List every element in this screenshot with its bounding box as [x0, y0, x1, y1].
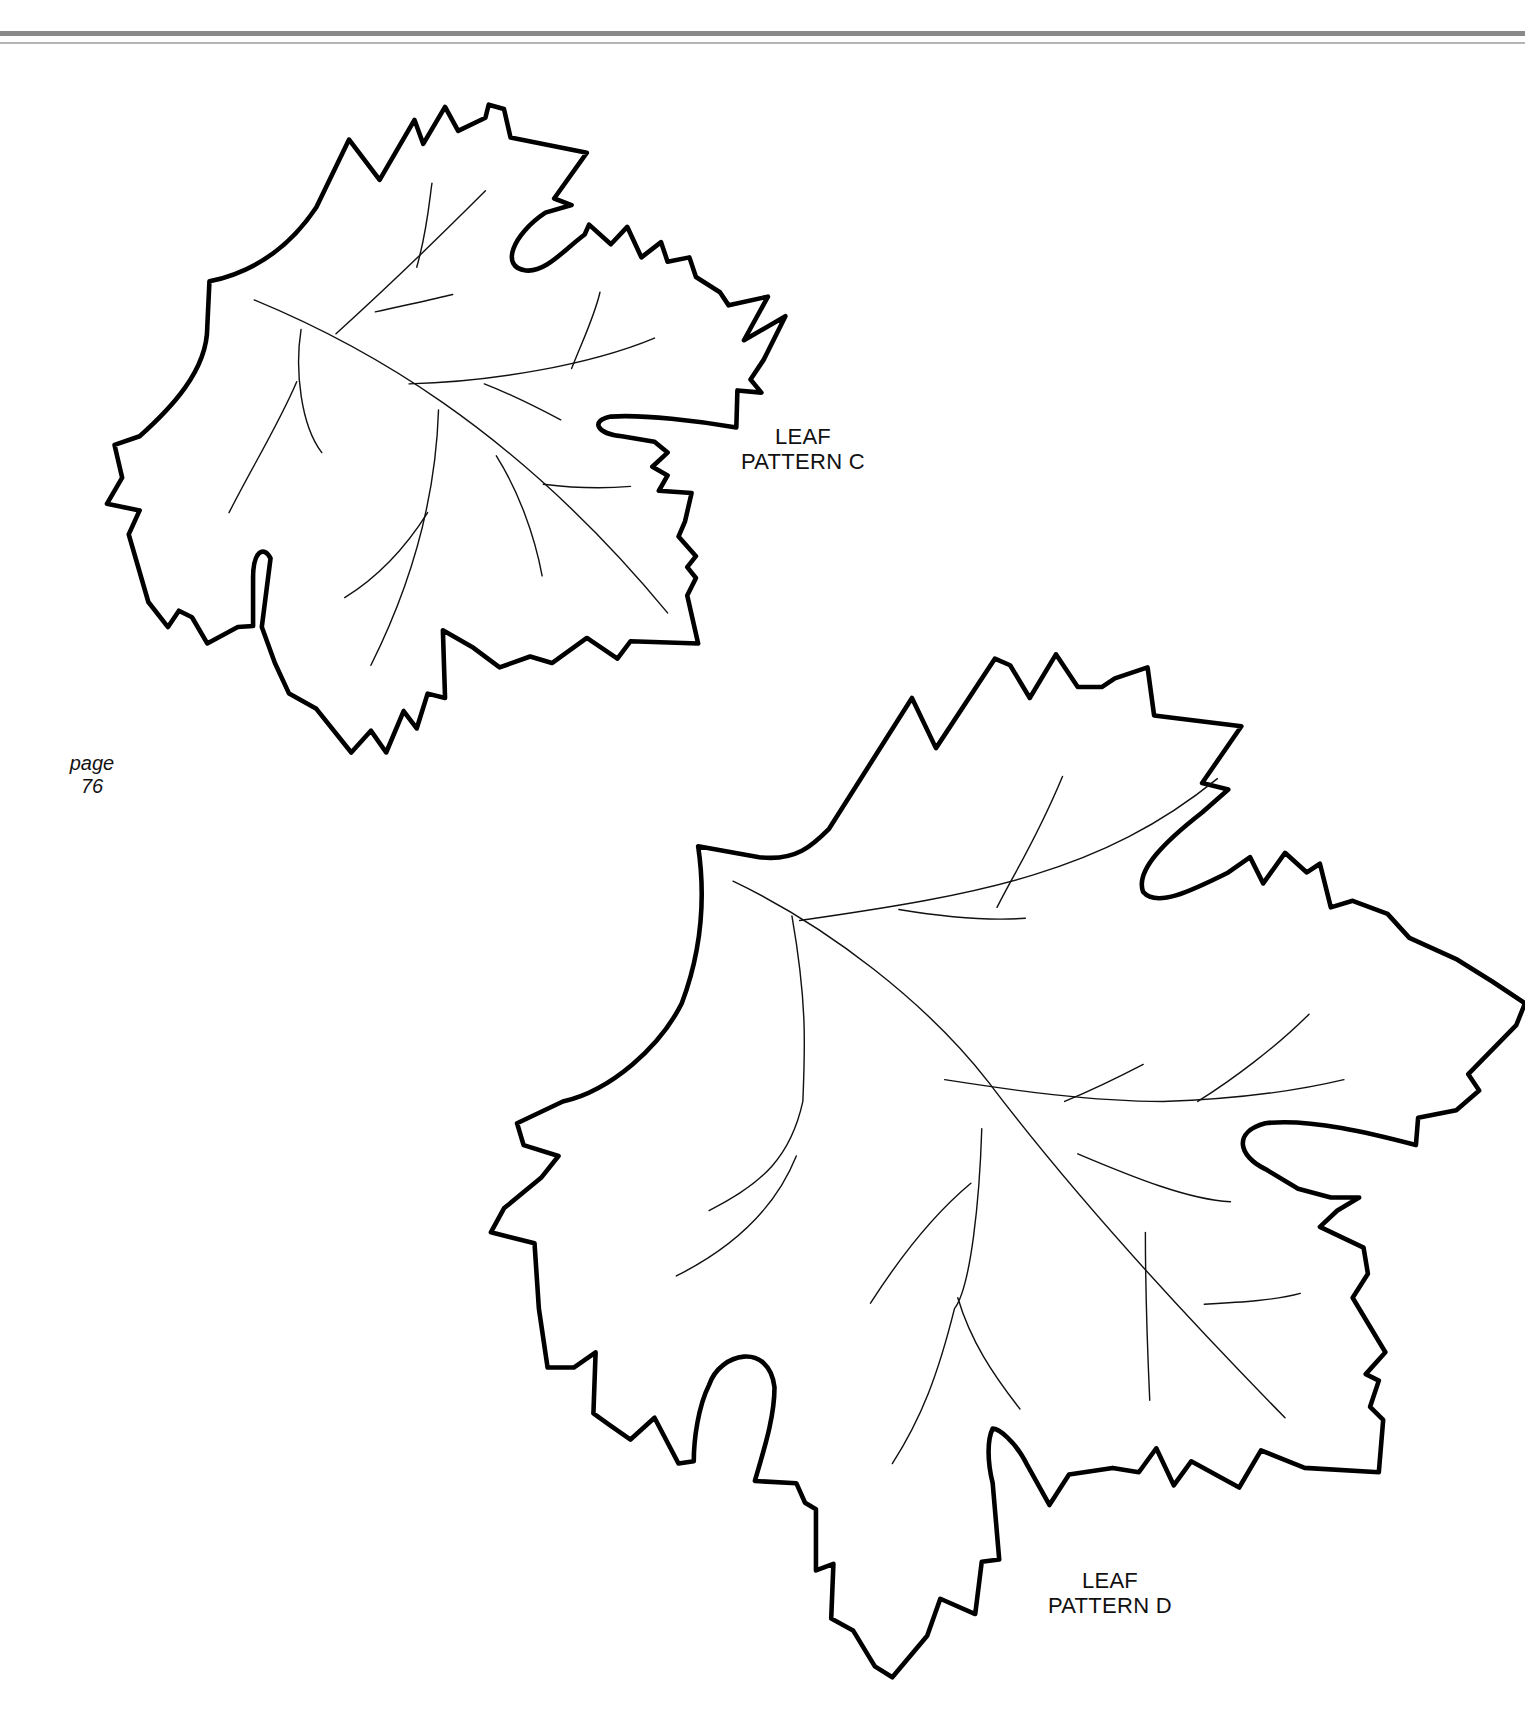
page-number: page 76: [52, 752, 132, 798]
leaf-pattern-c-label-line1: LEAF: [738, 424, 868, 449]
leaf-pattern-c-label: LEAF PATTERN C: [738, 424, 868, 474]
page-number-word: page: [52, 752, 132, 775]
leaf-pattern-c-drawing: [107, 105, 786, 753]
leaf-d-outline: [491, 654, 1525, 1677]
leaf-pattern-c-label-line2: PATTERN C: [738, 449, 868, 474]
leaf-c-outline: [107, 105, 786, 753]
leaf-pattern-d-drawing: [491, 654, 1525, 1677]
leaf-pattern-d-label: LEAF PATTERN D: [1030, 1568, 1190, 1618]
leaf-pattern-d-label-line2: PATTERN D: [1030, 1593, 1190, 1618]
leaf-pattern-d-label-line1: LEAF: [1030, 1568, 1190, 1593]
page-number-value: 76: [52, 775, 132, 798]
leaf-patterns-artwork: [0, 0, 1525, 1710]
